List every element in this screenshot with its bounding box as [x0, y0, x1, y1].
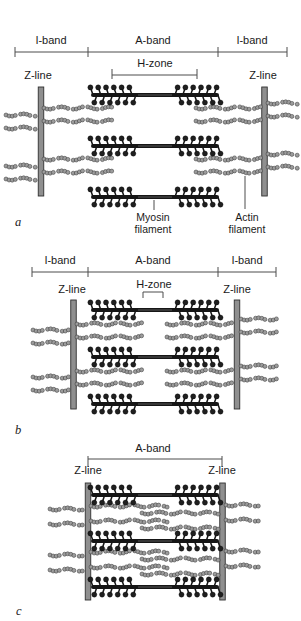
panel-a-z-line-right-label: Z-line — [249, 70, 277, 81]
panel-b-h-zone-label: H-zone — [136, 279, 171, 290]
panel-a-i-band-right-label: I-band — [236, 35, 267, 46]
panel-b-i-band-left-label: I-band — [44, 255, 75, 266]
panel-a-h-zone-label: H-zone — [137, 58, 172, 69]
panel-a-actin-filament-label: Actin filament — [220, 212, 274, 235]
panel-b-letter: b — [15, 424, 21, 436]
panel-a-z-line-left-label: Z-line — [24, 70, 52, 81]
panel-c-z-line-right-label: Z-line — [208, 465, 236, 476]
panel-b-i-band-right-label: I-band — [231, 255, 262, 266]
panel-c-z-line-left-label: Z-line — [74, 465, 102, 476]
muscle-contraction-figure: I-band A-band I-band H-zone Z-line Z-lin… — [0, 0, 301, 621]
panel-c-a-band-label: A-band — [135, 443, 170, 454]
sarcomere-diagram-art — [0, 0, 301, 621]
panel-b-z-line-left-label: Z-line — [58, 284, 86, 295]
panel-a-myosin-filament-label: Myosin filament — [126, 212, 180, 235]
panel-a-letter: a — [15, 216, 21, 228]
panel-a-a-band-label: A-band — [135, 35, 170, 46]
panel-b-z-line-right-label: Z-line — [223, 284, 251, 295]
panel-c-letter: c — [16, 605, 22, 617]
panel-a-i-band-left-label: I-band — [35, 35, 66, 46]
panel-b-a-band-label: A-band — [135, 255, 170, 266]
